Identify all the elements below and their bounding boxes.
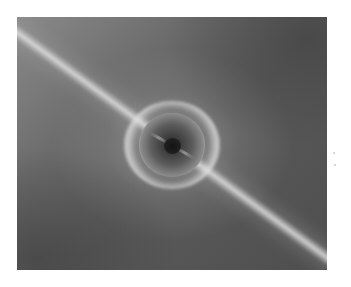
speck: [333, 152, 335, 154]
dark-core: [164, 138, 181, 154]
speck: [334, 164, 336, 166]
astronomical-image: [17, 17, 327, 270]
